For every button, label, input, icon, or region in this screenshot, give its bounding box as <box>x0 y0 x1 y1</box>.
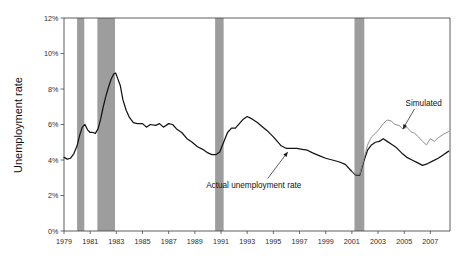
y-axis-title: Unemployment rate <box>12 77 24 173</box>
x-tick-label: 1997 <box>292 237 308 246</box>
x-tick-label: 2001 <box>344 237 360 246</box>
series-line-simulated <box>352 120 449 174</box>
x-tick-label: 2005 <box>396 237 412 246</box>
x-tick-label: 1983 <box>108 237 124 246</box>
x-tick-label: 1981 <box>82 237 98 246</box>
x-tick-label: 1999 <box>318 237 334 246</box>
series-line-actual-unemployment-rate <box>64 73 449 175</box>
annotation-leader-actual <box>268 152 288 179</box>
y-tick-label: 12% <box>44 14 59 23</box>
unemployment-rate-chart: 0%2%4%6%8%10%12%197919811983198519871989… <box>0 0 467 263</box>
chart-canvas: 0%2%4%6%8%10%12%197919811983198519871989… <box>0 0 467 263</box>
y-tick-label: 0% <box>48 227 59 236</box>
x-tick-label: 1979 <box>56 237 72 246</box>
plot-frame <box>64 18 450 231</box>
annotation-label-actual: Actual unemployment rate <box>206 181 302 190</box>
recession-band-2 <box>215 18 224 231</box>
x-tick-label: 1987 <box>161 237 177 246</box>
annotations-group: SimulatedActual unemployment rate <box>206 99 442 190</box>
y-tick-label: 4% <box>48 156 59 165</box>
x-tick-label: 1995 <box>265 237 281 246</box>
x-tick-label: 1989 <box>187 237 203 246</box>
x-tick-label: 1985 <box>135 237 151 246</box>
x-tick-label: 2007 <box>422 237 438 246</box>
y-tick-label: 2% <box>48 191 59 200</box>
recession-bands-group <box>77 18 364 231</box>
annotation-arrowhead-actual <box>283 152 287 157</box>
x-tick-label: 1993 <box>239 237 255 246</box>
x-tick-label: 2003 <box>370 237 386 246</box>
annotation-label-simulated: Simulated <box>406 99 443 108</box>
series-group <box>64 73 449 175</box>
recession-band-0 <box>77 18 84 231</box>
y-tick-label: 6% <box>48 120 59 129</box>
recession-band-3 <box>354 18 364 231</box>
recession-band-1 <box>97 18 115 231</box>
y-tick-label: 8% <box>48 85 59 94</box>
y-tick-label: 10% <box>44 49 59 58</box>
x-tick-label: 1991 <box>213 237 229 246</box>
